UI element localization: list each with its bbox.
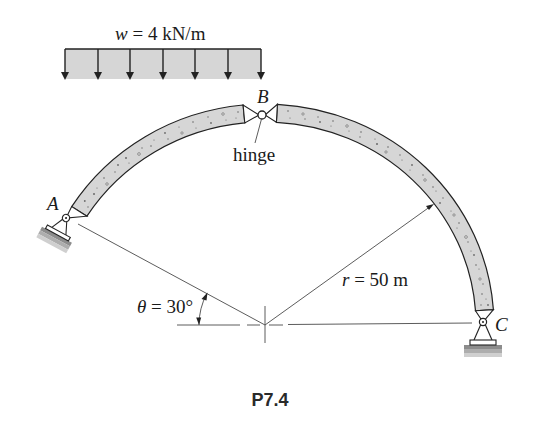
label-C: C [495,314,508,335]
horizontal-ref-right [288,323,472,325]
support-leg-right [485,324,492,340]
angle-arrowhead-bottom-icon [196,318,201,326]
ground-hatch [464,345,502,349]
hinge-pin-icon [258,111,266,119]
angle-arrowhead-top-icon [202,293,208,301]
hinge-connector-left [243,105,259,123]
support-base-plate [470,340,496,345]
radius-label: r = 50 m [342,269,408,290]
arch-segment-AB [72,105,245,216]
three-hinged-arch-diagram: w = 4 kN/m [0,0,539,431]
hinge-B: B hinge [233,86,277,165]
construction-lines [78,204,472,343]
hinge-connector-right [265,104,277,122]
angle-label: θ = 30° [137,296,193,317]
hinge-label: hinge [233,144,275,165]
label-B: B [257,86,269,107]
hinge-leader-line [255,119,262,143]
support-leg-left [474,324,481,340]
ground-hatch [464,349,502,353]
radial-line-r [265,206,431,325]
support-C: C [464,310,508,357]
figure-caption: P7.4 [251,390,288,410]
distributed-load: w = 4 kN/m [61,23,265,80]
label-A: A [45,193,59,214]
load-label: w = 4 kN/m [115,23,206,44]
ground-hatch [464,353,502,357]
